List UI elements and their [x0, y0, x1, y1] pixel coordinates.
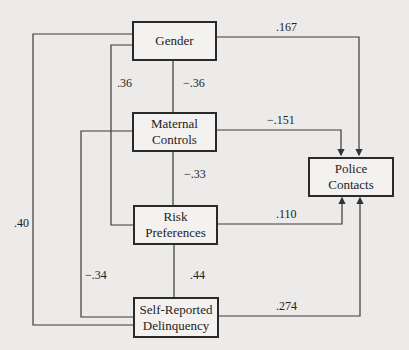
coef-risk-police: .110: [276, 207, 297, 222]
node-maternal-controls: Maternal Controls: [132, 112, 217, 152]
node-maternal-line2: Controls: [151, 132, 198, 148]
node-risk-line1: Risk: [145, 209, 206, 225]
node-risk-line2: Preferences: [145, 225, 206, 241]
coef-risk-selfrep: .44: [190, 268, 205, 283]
coef-gender-selfrep: .40: [14, 216, 29, 231]
path-diagram: Gender Maternal Controls Risk Preference…: [0, 0, 409, 350]
node-risk-preferences: Risk Preferences: [133, 205, 218, 245]
node-gender-label: Gender: [155, 33, 193, 49]
node-maternal-line1: Maternal: [151, 116, 198, 132]
coef-maternal-risk: −.33: [184, 167, 206, 182]
node-self-reported-delinquency: Self-Reported Delinquency: [133, 297, 219, 338]
node-police-line2: Contacts: [328, 177, 374, 193]
node-selfrep-line2: Delinquency: [140, 318, 213, 334]
coef-gender-police: .167: [276, 20, 297, 35]
edge-gender-risk: [111, 45, 133, 225]
node-gender: Gender: [132, 21, 217, 61]
node-police-contacts: Police Contacts: [308, 157, 394, 197]
coef-maternal-police: −.151: [267, 113, 295, 128]
coef-gender-risk: .36: [117, 76, 132, 91]
edge-maternal-selfrep: [81, 131, 133, 317]
edge-gender-police: [216, 37, 359, 155]
coef-maternal-selfrep: −.34: [85, 268, 107, 283]
coef-selfrep-police: .274: [276, 299, 297, 314]
node-selfrep-line1: Self-Reported: [140, 302, 213, 318]
edge-maternal-police: [216, 130, 341, 155]
coef-gender-maternal: −.36: [183, 76, 205, 91]
node-police-line1: Police: [328, 161, 374, 177]
